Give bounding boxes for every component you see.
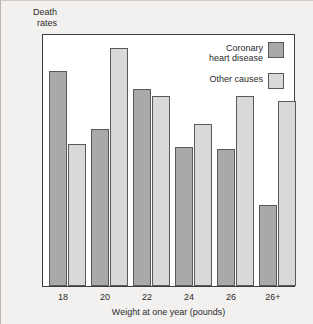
- plot-area: Coronary heart disease Other causes: [42, 34, 295, 287]
- bar-group: [85, 35, 127, 286]
- figure-container: Death rates Coronary heart disease Other…: [0, 0, 313, 324]
- bar: [152, 96, 170, 286]
- legend-swatch-dark-gray-icon: [268, 42, 284, 58]
- legend-swatch-light-gray-icon: [268, 73, 284, 89]
- bar: [49, 71, 67, 286]
- x-axis-tick-labels: 182022242626+: [42, 292, 295, 306]
- x-axis-tick-label: 18: [42, 292, 84, 302]
- chart-legend: Coronary heart disease Other causes: [154, 42, 284, 99]
- bar: [110, 48, 128, 286]
- bar: [194, 124, 212, 286]
- bar: [236, 96, 254, 286]
- bar: [68, 144, 86, 286]
- x-axis-tick-label: 26+: [252, 292, 294, 302]
- x-axis-tick-label: 20: [84, 292, 126, 302]
- x-axis-label: Weight at one year (pounds): [42, 307, 295, 317]
- legend-label-coronary-heart-disease: Coronary heart disease: [209, 42, 268, 63]
- bar: [217, 149, 235, 286]
- legend-label-other-causes: Other causes: [209, 73, 268, 84]
- legend-item-other-causes: Other causes: [154, 73, 284, 89]
- bar: [278, 101, 296, 286]
- bar: [259, 205, 277, 286]
- x-axis-tick-label: 22: [126, 292, 168, 302]
- y-axis-label: Death rates: [9, 7, 57, 29]
- x-axis-tick-label: 26: [210, 292, 252, 302]
- legend-item-coronary-heart-disease: Coronary heart disease: [154, 42, 284, 63]
- x-axis-tick-label: 24: [168, 292, 210, 302]
- bar: [133, 89, 151, 286]
- bar: [91, 129, 109, 286]
- bar: [175, 147, 193, 286]
- bar-group: [43, 35, 85, 286]
